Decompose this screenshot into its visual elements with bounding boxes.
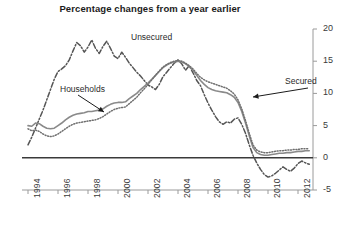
series-line-households [28,61,309,155]
x-axis-tick-label: 2012 [302,178,312,198]
y-axis-tick-label: 0 [323,152,345,162]
x-axis-tick-label: 2004 [182,178,192,198]
y-axis-tick-label: 5 [323,120,345,130]
x-axis-tick-label: 1996 [62,178,72,198]
y-axis-tick-label: -5 [323,184,345,194]
x-axis-tick-label: 2002 [152,178,162,198]
annotation-arrow-head [253,94,259,99]
series-line-secured [28,61,309,153]
chart-plot-area [0,0,360,242]
annotation-arrow-line [253,88,308,97]
annotation-label-unsecured: Unsecured [131,32,172,42]
annotation-label-households: Households [60,84,105,94]
x-axis-tick-label: 1998 [92,178,102,198]
x-axis-tick-label: 2010 [272,178,282,198]
y-axis-tick-label: 15 [323,55,345,65]
series-line-unsecured [28,40,309,177]
y-axis-tick-label: 20 [323,23,345,33]
y-axis-tick-label: 10 [323,87,345,97]
x-axis-tick-label: 1994 [32,178,42,198]
x-axis-tick-label: 2000 [122,178,132,198]
x-axis-tick-label: 2008 [242,178,252,198]
chart-root: Percentage changes from a year earlier -… [0,0,360,242]
annotation-label-secured: Secured [285,76,317,86]
x-axis-tick-label: 2006 [212,178,222,198]
